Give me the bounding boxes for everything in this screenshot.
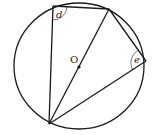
angle-label-e: e — [134, 54, 140, 65]
chord-right-upper — [109, 9, 146, 61]
center-point — [77, 65, 80, 68]
chord-bottom — [49, 61, 146, 124]
geometry-diagram: d e O — [0, 0, 156, 135]
center-label: O — [70, 54, 78, 65]
chord-left — [49, 6, 53, 124]
angle-label-d: d — [56, 9, 62, 20]
